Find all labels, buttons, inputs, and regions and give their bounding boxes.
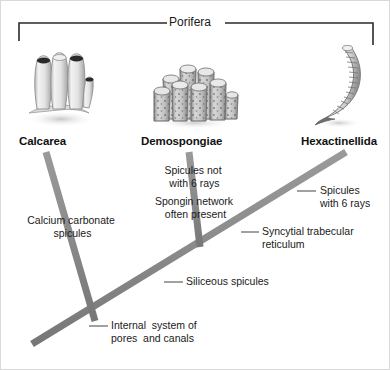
- calcareous-sponge-icon: [17, 47, 101, 129]
- taxon-label-calcarea: Calcarea: [19, 135, 66, 147]
- annotation-spicules-six-rays: Spicules with 6 rays: [320, 184, 388, 209]
- taxon-label-demospongiae: Demospongiae: [141, 135, 222, 147]
- glass-sponge-icon: [313, 39, 375, 129]
- annotation-internal-pores-canals: Internal system of pores and canals: [111, 319, 223, 344]
- annotation-calcium-carbonate-spicules: Calcium carbonate spicules: [17, 214, 125, 239]
- porifera-cladogram-figure: Porifera: [0, 0, 390, 370]
- annotation-syncytial-trabecular-reticulum: Syncytial trabecular reticulum: [262, 225, 372, 250]
- taxon-label-hexactinellida: Hexactinellida: [301, 135, 377, 147]
- annotation-spicules-not-six-rays: Spicules not with 6 rays: [149, 164, 237, 189]
- demosponge-cluster-icon: [149, 57, 239, 129]
- annotation-siliceous-spicules: Siliceous spicules: [186, 275, 286, 288]
- annotation-spongin-network: Spongin network often present: [142, 195, 246, 220]
- clade-label-porifera: Porifera: [169, 15, 211, 29]
